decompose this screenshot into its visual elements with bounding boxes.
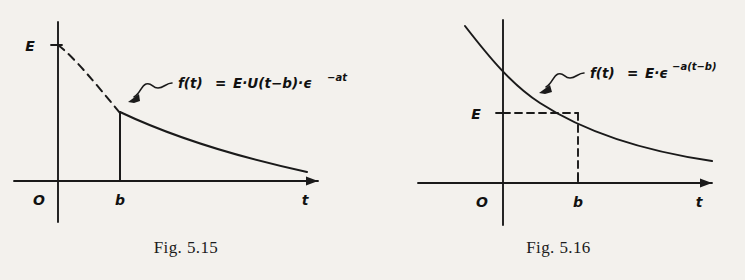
x-axis-arrowhead	[700, 179, 712, 188]
x-tick-label-b: b	[573, 194, 583, 210]
leader-arrowhead	[128, 94, 140, 103]
exponential-decay-curve	[120, 112, 307, 172]
leader-squiggle-line	[134, 83, 172, 97]
leader-arrowhead	[539, 85, 552, 94]
figure-5-15: f(t) = E·U(t−b)·ϵ −at E O b t Fig. 5.15	[0, 0, 372, 280]
x-tick-label-b: b	[115, 192, 125, 208]
x-axis-label-t: t	[302, 192, 310, 208]
x-axis-label-t: t	[696, 194, 704, 210]
plot-5-16: f(t) = E·ϵ −a(t−b) E O b t	[372, 0, 745, 238]
dashed-virtual-exponential	[58, 45, 120, 113]
plot-5-15: f(t) = E·U(t−b)·ϵ −at E O b t	[0, 0, 372, 238]
formula-text-rhs: E·U(t−b)·ϵ	[233, 75, 312, 91]
figure-page: f(t) = E·U(t−b)·ϵ −at E O b t Fig. 5.15	[0, 0, 745, 280]
x-axis-arrowhead	[306, 177, 318, 186]
formula-text-lhs: f(t)	[178, 75, 203, 91]
formula-text-lhs: f(t)	[590, 65, 615, 81]
figure-caption-5-16: Fig. 5.16	[372, 238, 745, 258]
origin-label: O	[476, 194, 488, 210]
formula-text-equals: =	[627, 65, 638, 81]
origin-label: O	[33, 192, 45, 208]
figure-caption-5-15: Fig. 5.15	[0, 238, 372, 258]
formula-text-rhs: E·ϵ	[645, 65, 668, 81]
exponential-decay-curve	[465, 26, 712, 161]
figure-5-16: f(t) = E·ϵ −a(t−b) E O b t Fig. 5.16	[372, 0, 745, 280]
formula-text-exponent: −at	[327, 72, 348, 83]
y-tick-label-E: E	[25, 38, 35, 54]
y-tick-label-E: E	[471, 106, 481, 122]
formula-text-equals: =	[215, 75, 226, 91]
formula-text-exponent: −a(t−b)	[672, 61, 717, 72]
leader-squiggle-line	[546, 73, 584, 87]
